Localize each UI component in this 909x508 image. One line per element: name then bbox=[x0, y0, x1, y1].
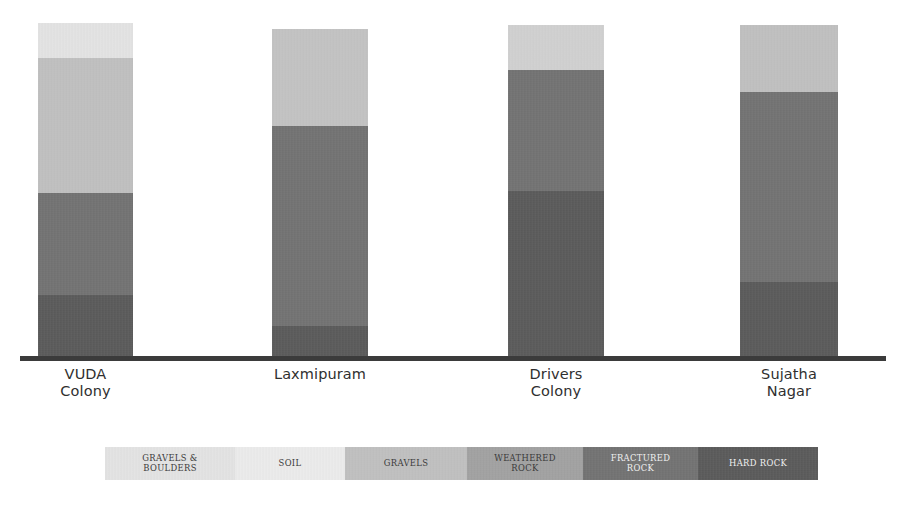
legend-label: FRACTURED ROCK bbox=[611, 454, 671, 473]
category-axis-labels: VUDA ColonyLaxmipuramDrivers ColonySujat… bbox=[0, 366, 909, 416]
bar-segment bbox=[508, 25, 604, 70]
bar-segment bbox=[38, 58, 133, 193]
bar-segment bbox=[508, 70, 604, 191]
bar-column bbox=[272, 29, 368, 358]
legend-item: GRAVELS bbox=[345, 447, 467, 480]
legend-label: WEATHERED ROCK bbox=[494, 454, 556, 473]
bar-segment bbox=[272, 326, 368, 358]
category-label: Drivers Colony bbox=[478, 366, 634, 400]
bar-segment bbox=[272, 126, 368, 326]
legend-label: GRAVELS bbox=[384, 459, 429, 469]
legend-label: SOIL bbox=[279, 459, 302, 469]
chart-legend: GRAVELS & BOULDERSSOILGRAVELSWEATHERED R… bbox=[105, 447, 818, 480]
legend-item: GRAVELS & BOULDERS bbox=[105, 447, 235, 480]
bar-segment bbox=[740, 92, 838, 282]
bar-segment bbox=[38, 295, 133, 358]
category-label: Laxmipuram bbox=[242, 366, 398, 383]
legend-item: FRACTURED ROCK bbox=[583, 447, 698, 480]
legend-label: GRAVELS & BOULDERS bbox=[142, 454, 197, 473]
legend-item: WEATHERED ROCK bbox=[467, 447, 583, 480]
bar-column bbox=[508, 25, 604, 358]
legend-item: HARD ROCK bbox=[698, 447, 818, 480]
category-label: Sujatha Nagar bbox=[710, 366, 868, 400]
bar-segment bbox=[38, 23, 133, 58]
bar-column bbox=[38, 23, 133, 358]
bar-segment bbox=[38, 193, 133, 295]
stacked-bar-chart: VUDA ColonyLaxmipuramDrivers ColonySujat… bbox=[0, 0, 909, 508]
bar-segment bbox=[740, 25, 838, 92]
bar-segment bbox=[272, 29, 368, 126]
legend-item: SOIL bbox=[235, 447, 345, 480]
bar-segment bbox=[740, 282, 838, 358]
category-label: VUDA Colony bbox=[8, 366, 163, 400]
legend-label: HARD ROCK bbox=[729, 459, 787, 469]
x-axis-line bbox=[20, 356, 886, 361]
bar-column bbox=[740, 25, 838, 358]
bar-segment bbox=[508, 191, 604, 358]
plot-area bbox=[0, 0, 909, 362]
